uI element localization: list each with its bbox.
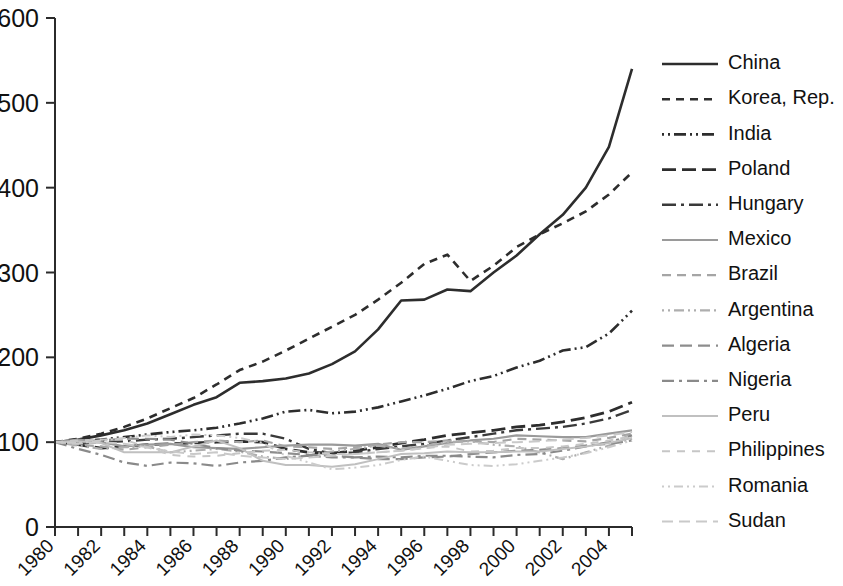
line-chart-canvas: 0100200300400500600 19801982198419861988… (0, 0, 843, 586)
x-tick-label: 1986 (152, 535, 197, 580)
y-tick-label: 0 (25, 513, 39, 541)
legend-label: India (728, 122, 772, 144)
legend: ChinaKorea, Rep.IndiaPolandHungaryMexico… (662, 51, 835, 531)
series-line-india (55, 311, 632, 442)
y-tick-label: 500 (0, 89, 39, 117)
y-tick-label: 400 (0, 174, 39, 202)
legend-label: Korea, Rep. (728, 86, 835, 108)
x-tick-label: 1996 (382, 535, 427, 580)
legend-label: Mexico (728, 227, 791, 249)
legend-label: Hungary (728, 192, 804, 214)
series-group (55, 69, 632, 469)
legend-label: Poland (728, 157, 790, 179)
legend-label: Algeria (728, 333, 791, 355)
x-tick-label: 1980 (13, 535, 58, 580)
legend-label: Sudan (728, 509, 786, 531)
x-axis-ticks (55, 527, 632, 536)
legend-label: Argentina (728, 298, 814, 320)
x-tick-label: 2000 (475, 535, 520, 580)
legend-label: Brazil (728, 262, 778, 284)
y-tick-label: 300 (0, 259, 39, 287)
legend-label: Nigeria (728, 368, 792, 390)
legend-label: Peru (728, 403, 770, 425)
y-tick-label: 100 (0, 428, 39, 456)
legend-label: China (728, 51, 781, 73)
y-tick-label: 600 (0, 4, 39, 32)
x-tick-label: 1984 (105, 535, 150, 580)
x-tick-label: 1982 (59, 535, 104, 580)
series-line-korea-rep (55, 172, 632, 442)
legend-label: Philippines (728, 438, 825, 460)
y-axis-ticks (46, 18, 55, 527)
series-line-china (55, 69, 632, 442)
x-tick-label: 1998 (429, 535, 474, 580)
x-tick-label: 2004 (567, 535, 612, 580)
y-axis-labels: 0100200300400500600 (0, 4, 39, 541)
x-axis-labels: 1980198219841986198819901992199419961998… (13, 535, 612, 580)
x-tick-label: 1992 (290, 535, 335, 580)
chart-figure: 0100200300400500600 19801982198419861988… (0, 0, 843, 586)
x-tick-label: 1988 (198, 535, 243, 580)
x-tick-label: 2002 (521, 535, 566, 580)
x-tick-label: 1994 (336, 535, 381, 580)
legend-label: Romania (728, 474, 809, 496)
y-tick-label: 200 (0, 343, 39, 371)
x-tick-label: 1990 (244, 535, 289, 580)
